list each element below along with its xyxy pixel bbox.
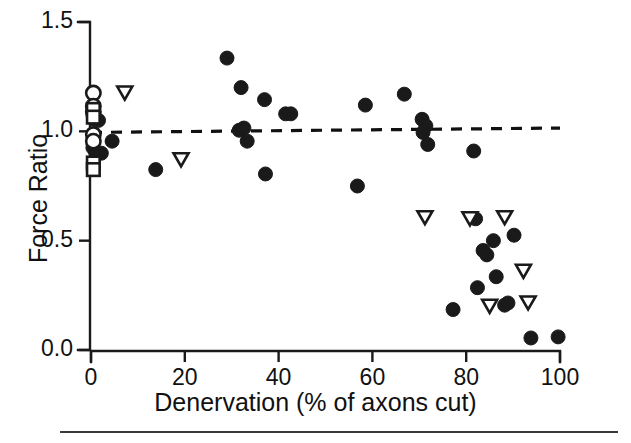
data-point-filled-circle xyxy=(258,167,272,181)
y-tick-label: 0.0 xyxy=(3,335,73,362)
data-point-filled-circle xyxy=(524,331,538,345)
x-tick-label: 20 xyxy=(150,364,220,391)
data-point-filled-circle xyxy=(467,144,481,158)
data-point-open-down-triangle xyxy=(521,296,536,309)
data-point-filled-circle xyxy=(258,93,272,107)
data-point-filled-circle xyxy=(350,179,364,193)
data-point-open-square xyxy=(87,111,100,124)
data-point-open-down-triangle xyxy=(117,87,132,100)
y-tick-label: 1.0 xyxy=(3,116,73,143)
data-markers xyxy=(86,51,565,345)
data-point-open-down-triangle xyxy=(174,153,189,166)
data-point-filled-circle xyxy=(507,228,521,242)
x-axis-label: Denervation (% of axons cut) xyxy=(0,388,631,417)
data-point-filled-circle xyxy=(284,107,298,121)
data-point-filled-circle xyxy=(486,234,500,248)
data-point-open-down-triangle xyxy=(417,211,432,224)
scatter-plot-figure: Force Ratio Denervation (% of axons cut)… xyxy=(0,0,631,443)
x-tick-label: 60 xyxy=(337,364,407,391)
data-point-filled-circle xyxy=(358,98,372,112)
y-tick-label: 1.5 xyxy=(3,7,73,34)
data-point-filled-circle xyxy=(220,51,234,65)
data-point-filled-circle xyxy=(234,81,248,95)
data-point-filled-circle xyxy=(446,303,460,317)
y-tick-label: 0.5 xyxy=(3,226,73,253)
data-point-filled-circle xyxy=(240,134,254,148)
footer-divider xyxy=(60,431,618,433)
data-point-filled-circle xyxy=(501,296,515,310)
data-point-open-circle xyxy=(86,134,100,148)
data-point-filled-circle xyxy=(480,248,494,262)
data-point-filled-circle xyxy=(470,281,484,295)
x-tick-label: 40 xyxy=(244,364,314,391)
x-tick-label: 100 xyxy=(525,364,595,391)
data-point-filled-circle xyxy=(149,163,163,177)
data-point-open-down-triangle xyxy=(482,300,497,313)
x-tick-label: 80 xyxy=(431,364,501,391)
data-point-filled-circle xyxy=(421,137,435,151)
data-point-filled-circle xyxy=(237,121,251,135)
data-point-open-square xyxy=(87,163,100,176)
data-point-filled-circle xyxy=(489,270,503,284)
reference-line xyxy=(91,128,560,132)
data-point-filled-circle xyxy=(105,134,119,148)
data-point-filled-circle xyxy=(551,330,565,344)
data-point-open-down-triangle xyxy=(516,265,531,278)
data-point-filled-circle xyxy=(397,87,411,101)
x-tick-label: 0 xyxy=(56,364,126,391)
data-point-open-down-triangle xyxy=(497,211,512,224)
